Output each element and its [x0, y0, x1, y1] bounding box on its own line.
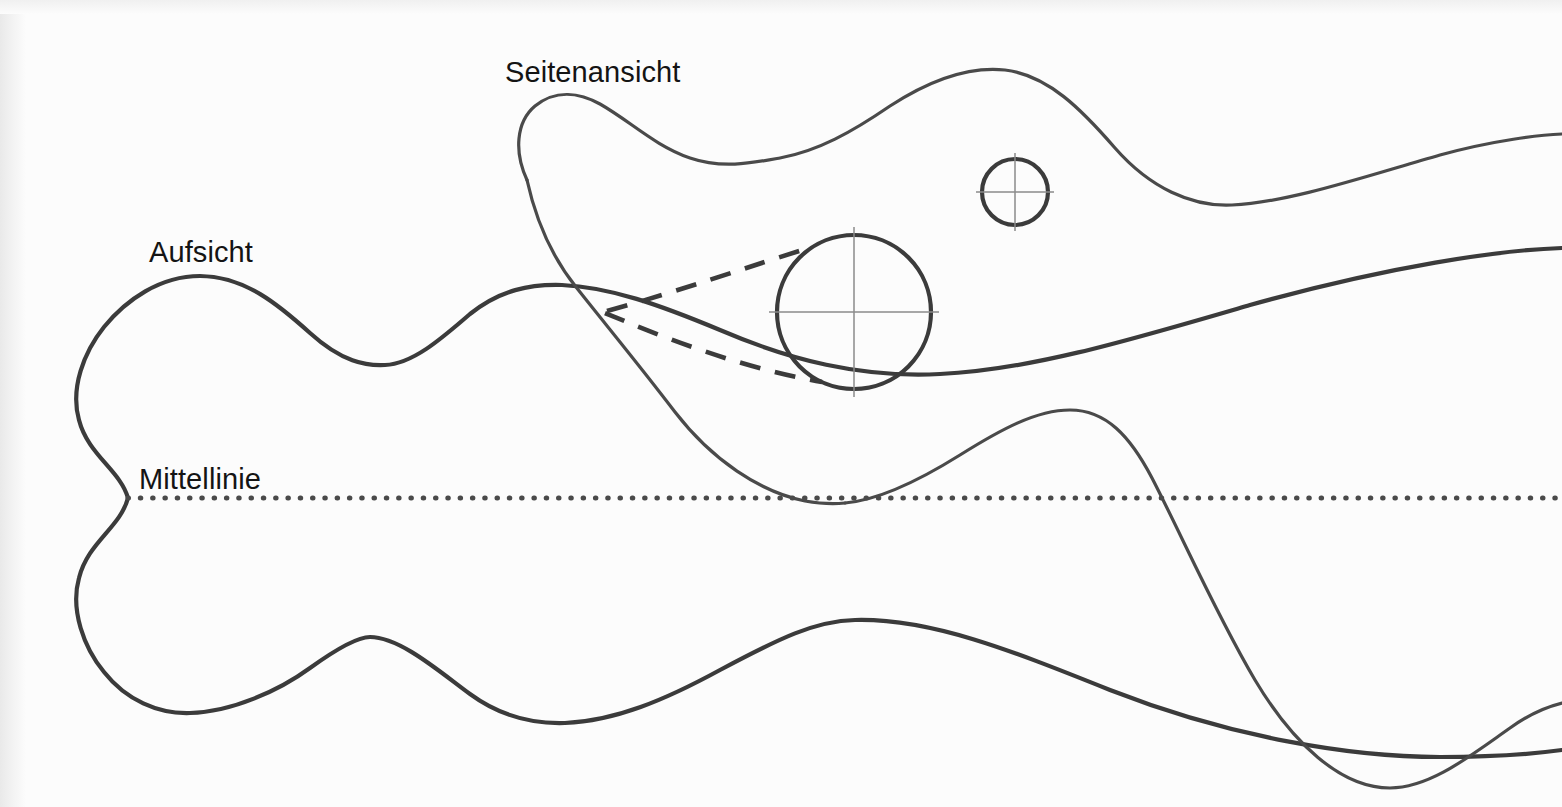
label-mittellinie: Mittellinie — [139, 463, 261, 495]
drawing-canvas: Seitenansicht Aufsicht Mittellinie — [0, 0, 1562, 807]
label-aufsicht: Aufsicht — [149, 236, 253, 268]
aufsicht-lower-outline — [76, 498, 1562, 757]
seitenansicht-lower-outline — [845, 410, 1562, 788]
label-seitenansicht: Seitenansicht — [505, 56, 680, 88]
seitenansicht-leading-edge — [527, 180, 845, 504]
seitenansicht-upper-outline — [519, 69, 1562, 205]
hidden-taper-lower-line — [605, 313, 822, 382]
aufsicht-upper-outline — [76, 248, 1562, 498]
small-bore-circle — [976, 153, 1054, 231]
seitenansicht-outline-group — [519, 69, 1562, 788]
technical-drawing-svg: Seitenansicht Aufsicht Mittellinie — [0, 0, 1562, 807]
